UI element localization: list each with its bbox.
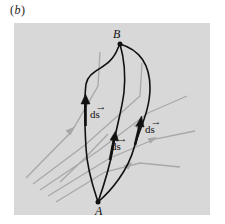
- vector-arrow-icon: →: [96, 100, 107, 112]
- point-b-dot: [118, 42, 123, 47]
- field-paths-diagram: ds → ds → ds → B A: [0, 0, 225, 224]
- point-a-label: A: [94, 204, 103, 218]
- arrowhead-icon: [81, 94, 90, 104]
- field-line-arrow-icon: [66, 128, 73, 135]
- field-line: [26, 52, 100, 178]
- left-path: [85, 44, 120, 202]
- vector-arrow-icon: →: [117, 132, 128, 144]
- vector-arrow-icon: →: [151, 115, 162, 127]
- field-lines: [26, 52, 195, 202]
- ds-labels: ds → ds → ds →: [90, 100, 162, 152]
- point-b-label: B: [113, 27, 121, 41]
- field-line-arrow-icon: [148, 138, 155, 143]
